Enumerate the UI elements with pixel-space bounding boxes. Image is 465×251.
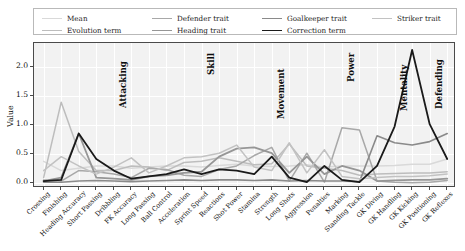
x-tick-mark xyxy=(271,187,272,190)
x-tick-mark xyxy=(95,187,96,190)
series-layer xyxy=(34,43,455,187)
legend-item-heading-trait: Heading trait xyxy=(152,24,226,36)
legend-item-striker-trait: Striker trait xyxy=(372,12,441,24)
x-tick-mark xyxy=(201,187,202,190)
legend-swatch-icon xyxy=(152,18,172,19)
group-label-movement: Movement xyxy=(276,69,286,119)
legend-label: Striker trait xyxy=(397,14,441,23)
chart-legend: MeanDefender traitGoalkeeper traitStrike… xyxy=(33,8,457,35)
legend-item-evolution-term: Evolution term xyxy=(42,24,121,36)
legend-label: Goalkeeper trait xyxy=(287,14,347,23)
legend-swatch-icon xyxy=(42,30,62,31)
legend-label: Correction term xyxy=(287,26,346,35)
x-tick-mark xyxy=(358,187,359,190)
x-tick-mark xyxy=(43,187,44,190)
legend-item-mean: Mean xyxy=(42,12,88,24)
chart-figure: MeanDefender traitGoalkeeper traitStrike… xyxy=(0,0,465,251)
group-label-attacking: Attacking xyxy=(118,61,128,108)
legend-swatch-icon xyxy=(262,30,282,31)
x-tick-mark xyxy=(341,187,342,190)
legend-item-correction-term: Correction term xyxy=(262,24,346,36)
legend-label: Mean xyxy=(67,14,88,23)
x-tick-mark xyxy=(218,187,219,190)
x-tick-mark xyxy=(113,187,114,190)
y-tick-label: 1.5 xyxy=(2,90,28,99)
y-tick-label: 0.0 xyxy=(2,177,28,186)
y-tick-label: 1.0 xyxy=(2,119,28,128)
x-tick-mark xyxy=(376,187,377,190)
plot-area: AttackingSkillMovementPowerMentalityDefe… xyxy=(33,42,455,187)
y-tick-label: 0.5 xyxy=(2,148,28,157)
x-tick-mark xyxy=(165,187,166,190)
series-line-goalkeeper-trait xyxy=(44,133,448,182)
x-tick-mark xyxy=(429,187,430,190)
legend-swatch-icon xyxy=(262,18,282,19)
x-tick-mark xyxy=(323,187,324,190)
x-tick-mark xyxy=(394,187,395,190)
x-tick-mark xyxy=(60,187,61,190)
group-label-skill: Skill xyxy=(206,53,216,75)
legend-label: Evolution term xyxy=(67,26,121,35)
x-tick-mark xyxy=(446,187,447,190)
y-tick-label: 2.0 xyxy=(2,61,28,70)
x-tick-mark xyxy=(411,187,412,190)
legend-label: Heading trait xyxy=(177,26,226,35)
legend-swatch-icon xyxy=(42,18,62,19)
legend-label: Defender trait xyxy=(177,14,229,23)
x-tick-mark xyxy=(130,187,131,190)
x-tick-mark xyxy=(306,187,307,190)
x-tick-mark xyxy=(148,187,149,190)
legend-swatch-icon xyxy=(372,18,392,19)
x-tick-mark xyxy=(183,187,184,190)
x-tick-mark xyxy=(78,187,79,190)
group-label-defending: Defending xyxy=(434,59,444,109)
legend-item-goalkeeper-trait: Goalkeeper trait xyxy=(262,12,347,24)
group-label-power: Power xyxy=(346,53,356,82)
x-tick-mark xyxy=(253,187,254,190)
legend-swatch-icon xyxy=(152,30,172,31)
group-label-mentality: Mentality xyxy=(399,65,409,111)
x-tick-mark xyxy=(236,187,237,190)
x-tick-mark xyxy=(288,187,289,190)
legend-item-defender-trait: Defender trait xyxy=(152,12,229,24)
